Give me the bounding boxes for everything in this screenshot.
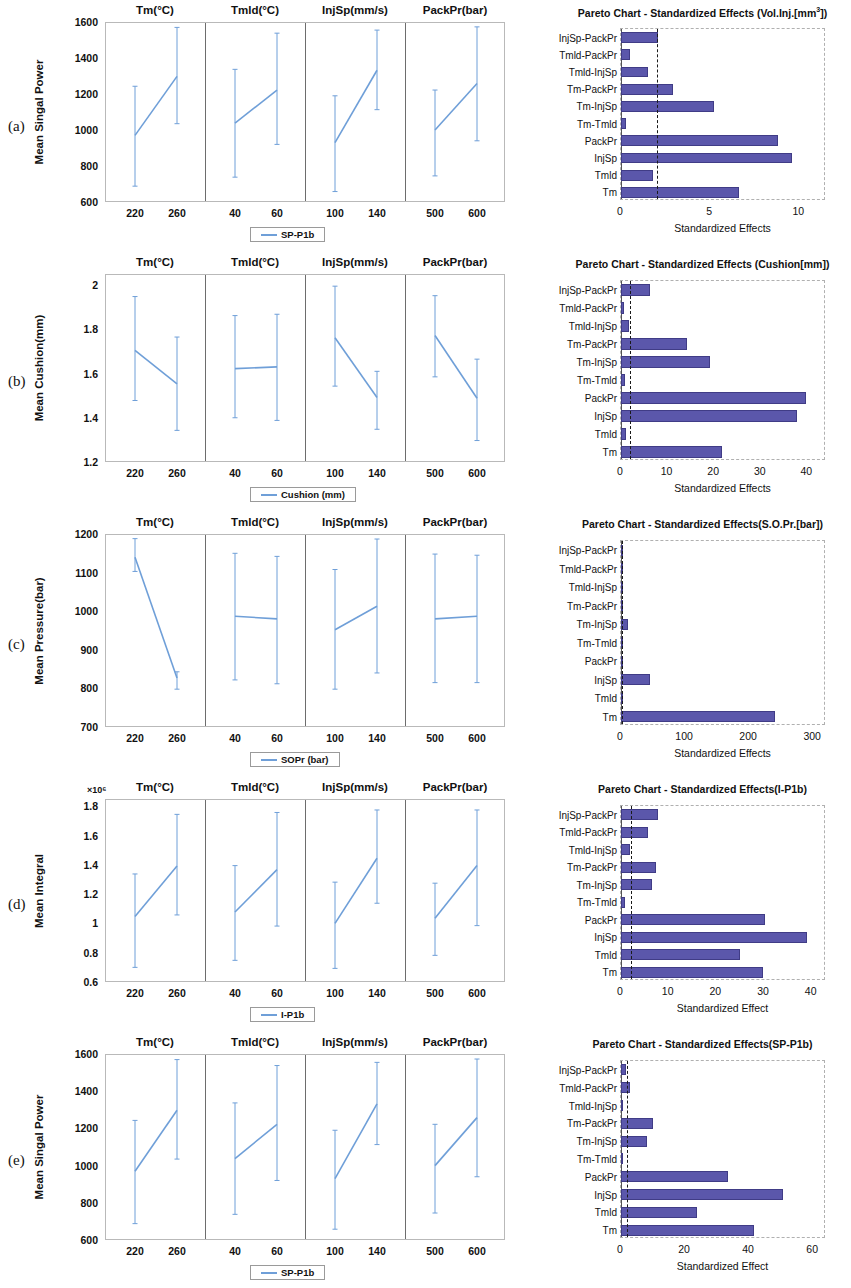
y-tick-label: 1.6: [83, 830, 98, 842]
pareto-x-tick: 0: [617, 730, 623, 742]
x-tick-label: 60: [271, 207, 283, 219]
legend-line-swatch: [261, 494, 277, 496]
pareto-row-label: Tm-Tmld: [517, 897, 617, 908]
main-effects-ylabel: Mean Pressure(bar): [33, 577, 45, 684]
y-tick-label: 1000: [75, 124, 98, 136]
pareto-row-label: Tmld-PackPr: [517, 303, 617, 314]
pareto-row-label: Tm-PackPr: [517, 339, 617, 350]
pareto-x-tick: 20: [710, 985, 722, 997]
pareto-row-label: Tm-PackPr: [517, 1118, 617, 1129]
pareto-bar: [621, 170, 653, 181]
x-tick-label: 260: [168, 207, 186, 219]
x-tick-label: 100: [326, 467, 344, 479]
x-tick-label: 220: [126, 207, 144, 219]
main-effects-yticks: 1600140012001000800600: [59, 22, 101, 202]
pareto-bar: [621, 284, 650, 295]
significance-threshold-line: [622, 541, 623, 724]
panel-5: (e)Mean Singal Power16001400120010008006…: [0, 1032, 851, 1288]
pareto-bar: [621, 101, 714, 112]
pareto-x-tick: 0: [617, 205, 623, 217]
x-tick-label: 500: [426, 207, 444, 219]
x-tick-label: 40: [229, 732, 241, 744]
legend-line-swatch: [261, 234, 277, 236]
pareto-row-label: Tm: [517, 187, 617, 198]
x-tick-label: 40: [229, 207, 241, 219]
legend-line-swatch: [261, 759, 277, 761]
pareto-xlabel: Standardized Effects: [620, 482, 825, 494]
pareto-title: Pareto Chart - Standardized Effects(S.O.…: [545, 518, 851, 530]
pareto-bar: [621, 1171, 728, 1182]
x-tick-label: 60: [271, 467, 283, 479]
pareto-row-label: Tm-InjSp: [517, 357, 617, 368]
pareto-bar: [621, 1118, 653, 1129]
pareto-x-tick: 0: [617, 985, 623, 997]
pareto-row-label: Tm-Tmld: [517, 118, 617, 129]
pareto-row-label: Tmld: [517, 429, 617, 440]
legend-line-swatch: [261, 1014, 277, 1016]
pareto-row-label: PackPr: [517, 135, 617, 146]
pareto-row-label: Tmld-InjSp: [517, 1100, 617, 1111]
factor-title: Tmld(°C): [205, 1036, 305, 1048]
pareto-plot-area: InjSp-PackPrTmld-PackPrTmld-InjSpTm-Pack…: [620, 280, 825, 460]
main-effects-ylabel: Mean Singal Power: [33, 1095, 45, 1200]
y-tick-label: 700: [80, 721, 98, 733]
main-effects-ylabel: Mean Singal Power: [33, 60, 45, 165]
factor-title: Tmld(°C): [205, 781, 305, 793]
pareto-plot-area: InjSp-PackPrTmld-PackPrTmld-InjSpTm-Pack…: [620, 540, 825, 725]
factor-title: InjSp(mm/s): [305, 781, 405, 793]
factor-title: InjSp(mm/s): [305, 1036, 405, 1048]
pareto-row-label: InjSp: [517, 674, 617, 685]
y-axis-exponent: ×10⁶: [87, 785, 106, 795]
pareto-row-label: PackPr: [517, 914, 617, 925]
pareto-bar: [621, 862, 656, 873]
pareto-bar: [621, 1189, 783, 1200]
pareto-bar: [621, 392, 806, 403]
main-effects-yticks: 1.81.61.41.210.80.6: [59, 799, 101, 982]
pareto-row-label: InjSp-PackPr: [517, 545, 617, 556]
y-tick-label: 600: [80, 196, 98, 208]
pareto-x-tick: 20: [707, 465, 719, 477]
pareto-x-tick: 10: [792, 205, 804, 217]
pareto-row-label: Tm-PackPr: [517, 84, 617, 95]
x-tick-label: 40: [229, 1245, 241, 1257]
pareto-row-label: InjSp: [517, 153, 617, 164]
y-tick-label: 800: [80, 160, 98, 172]
pareto-row-label: Tm: [517, 967, 617, 978]
factor-title: InjSp(mm/s): [305, 516, 405, 528]
pareto-bar: [621, 320, 629, 331]
pareto-x-tick: 300: [803, 730, 821, 742]
pareto-xlabel: Standardized Effects: [620, 222, 825, 234]
y-tick-label: 600: [80, 1234, 98, 1246]
y-tick-label: 1.2: [83, 888, 98, 900]
pareto-bar: [621, 949, 740, 960]
y-tick-label: 0.6: [83, 976, 98, 988]
pareto-bar: [621, 711, 775, 722]
legend-label: SOPr (bar): [281, 754, 329, 765]
legend-label: I-P1b: [281, 1009, 304, 1020]
y-tick-label: 1.4: [83, 412, 98, 424]
pareto-title: Pareto Chart - Standardized Effects (Cus…: [545, 258, 851, 270]
factor-title: Tm(°C): [105, 516, 205, 528]
x-tick-label: 600: [468, 467, 486, 479]
x-tick-label: 600: [468, 987, 486, 999]
main-effects-plot: Mean Pressure(bar)120011001000900800700T…: [105, 534, 505, 727]
main-effects-legend: I-P1b: [250, 1007, 315, 1022]
pareto-row-label: Tm: [517, 1225, 617, 1236]
y-tick-label: 1.6: [83, 368, 98, 380]
pareto-bar: [621, 879, 652, 890]
pareto-x-tick: 200: [739, 730, 757, 742]
main-effects-legend: Cushion (mm): [250, 487, 356, 502]
main-effects-plot: Mean Integral×10⁶1.81.61.41.210.80.6Tm(°…: [105, 799, 505, 982]
pareto-row-label: InjSp: [517, 411, 617, 422]
y-tick-label: 1600: [75, 16, 98, 28]
y-tick-label: 1.2: [83, 456, 98, 468]
pareto-xlabel: Standardized Effects: [620, 747, 825, 759]
pareto-chart: Pareto Chart - Standardized Effects (Cus…: [620, 280, 825, 460]
pareto-row-label: Tmld: [517, 693, 617, 704]
pareto-bar: [621, 118, 626, 129]
main-effects-yticks: 21.81.61.41.2: [59, 274, 101, 462]
x-tick-label: 100: [326, 732, 344, 744]
panel-letter: (c): [8, 636, 25, 653]
factor-title: PackPr(bar): [405, 1036, 505, 1048]
y-tick-label: 800: [80, 682, 98, 694]
